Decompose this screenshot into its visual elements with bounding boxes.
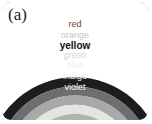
figure-panel: red orange yellow green blue indigo viol… (0, 0, 152, 124)
band-label-orange: orange (61, 31, 89, 40)
band-label-green: green (63, 51, 86, 60)
band-label-yellow: yellow (60, 41, 91, 50)
band-label-red: red (68, 20, 81, 29)
band-label-indigo: indigo (63, 72, 87, 81)
band-label-violet: violet (64, 83, 85, 92)
band-label-blue: blue (66, 61, 83, 70)
panel-label: (a) (8, 5, 27, 25)
